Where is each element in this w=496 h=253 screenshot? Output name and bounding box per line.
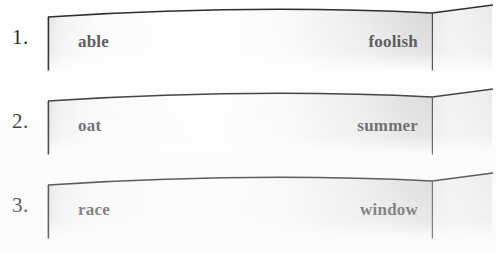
worksheet-page: 1. xyxy=(0,0,496,253)
paper-strip: able foolish xyxy=(0,0,496,84)
strip-word-left: oat xyxy=(78,117,101,134)
worksheet-row: 3. xyxy=(0,168,496,252)
paper-strip: race window xyxy=(0,168,496,252)
paper-strip-graphic xyxy=(0,0,496,84)
worksheet-row: 2. xyxy=(0,84,496,168)
strip-word-right: summer xyxy=(357,117,418,134)
strip-word-left: able xyxy=(78,33,109,50)
paper-strip-graphic xyxy=(0,168,496,252)
paper-strip: oat summer xyxy=(0,84,496,168)
worksheet-row: 1. xyxy=(0,0,496,84)
strip-word-left: race xyxy=(78,201,110,218)
strip-word-right: foolish xyxy=(368,33,418,50)
paper-strip-graphic xyxy=(0,84,496,168)
strip-word-right: window xyxy=(360,201,418,218)
